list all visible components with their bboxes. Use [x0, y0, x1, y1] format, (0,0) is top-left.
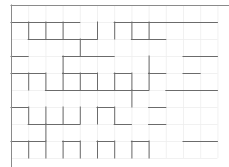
maze-figure: [0, 0, 229, 167]
maze-canvas: [0, 0, 229, 167]
